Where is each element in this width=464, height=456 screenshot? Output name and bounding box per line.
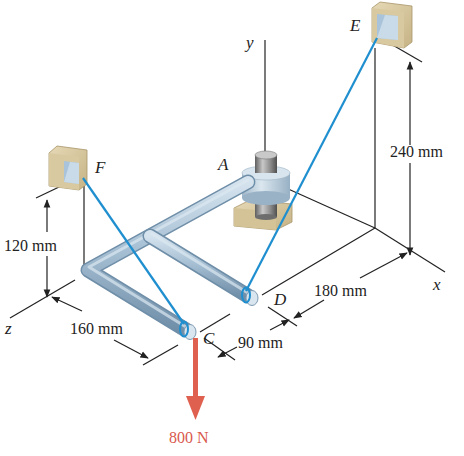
support-bracket-f: [49, 146, 87, 190]
dimension-120-label: 120 mm: [4, 237, 57, 254]
x-axis-label: x: [432, 275, 441, 294]
dimension-180-label: 180 mm: [314, 282, 367, 299]
y-axis-label: y: [244, 33, 254, 52]
point-a-label: A: [217, 155, 229, 174]
point-c-label: C: [203, 329, 215, 348]
pipe-end-c: [184, 325, 196, 340]
z-axis-label: z: [4, 319, 12, 338]
z-axis-line: [10, 280, 75, 318]
point-f-label: F: [94, 158, 106, 177]
x-axis-back-line: [286, 188, 375, 228]
load-label: 800 N: [169, 429, 209, 446]
bent-pipe: [88, 180, 248, 330]
point-d-label: D: [273, 290, 287, 309]
load-arrow: [186, 338, 205, 420]
dimension-240-label: 240 mm: [390, 143, 443, 160]
support-bracket-e: [372, 2, 412, 48]
pipe-end-d: [246, 291, 258, 306]
dimension-90-label: 90 mm: [238, 334, 283, 351]
point-e-label: E: [349, 16, 361, 35]
diagram-canvas: 240 mm 120 mm 160 mm 180 mm 90 mm E F: [0, 0, 464, 456]
dimension-160-label: 160 mm: [70, 320, 123, 337]
